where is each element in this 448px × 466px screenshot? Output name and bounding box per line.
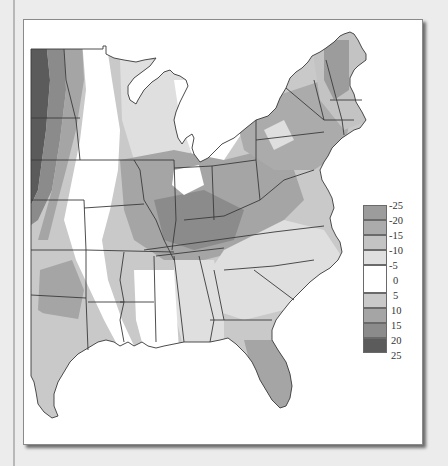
legend-swatch [363,308,387,323]
legend-swatch [363,338,387,353]
page-edge-line [13,0,15,466]
legend-tick: 15 [391,321,402,331]
legend-tick: -20 [389,216,403,226]
legend-swatch [363,250,387,265]
legend-tick: -15 [389,231,403,241]
legend-tick: 0 [393,276,398,286]
legend-tick: -10 [389,246,403,256]
legend-swatch [363,220,387,235]
legend-tick: 10 [391,306,402,316]
map-figure: -25 -20 -15 -10 -5 0 5 10 15 20 25 [23,19,423,445]
legend-swatch [363,235,387,250]
legend-swatch [363,293,387,308]
legend-tick: 20 [391,336,402,346]
legend-swatch [363,323,387,338]
legend-swatch [363,205,387,220]
legend-tick: -5 [389,261,398,271]
legend-tick: 5 [393,291,398,301]
legend-swatch [363,265,387,293]
legend-tick: -25 [389,201,403,211]
legend-tick: 25 [391,351,402,361]
